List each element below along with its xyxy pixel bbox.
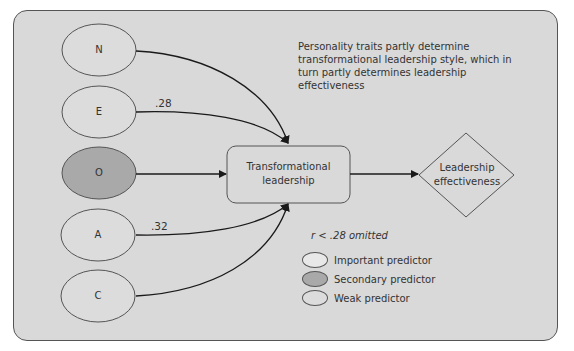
omitted-note: r < .28 omitted (311, 230, 388, 241)
caption-line-1: Personality traits partly determine (298, 40, 518, 53)
mediator-label-line2: leadership (227, 174, 350, 188)
diagram-canvas: N E O A C .28 .32 Transformational leade… (0, 0, 574, 351)
legend-swatch-weak-icon (302, 290, 328, 306)
legend-label-important: Important predictor (334, 255, 432, 266)
predictor-o-label: O (89, 166, 109, 180)
outcome-label-line2: effectiveness (421, 175, 513, 189)
predictor-e-label: E (89, 105, 109, 119)
coefficient-a: .32 (151, 220, 168, 232)
outcome-label-line1: Leadership (421, 161, 513, 175)
coefficient-e: .28 (155, 97, 172, 109)
legend-item-important: Important predictor (302, 252, 432, 268)
caption-line-4: effectiveness (298, 79, 518, 92)
diagram-caption: Personality traits partly determine tran… (298, 40, 518, 92)
mediator-label: Transformational leadership (227, 160, 350, 188)
predictor-n-label: N (89, 43, 109, 57)
caption-line-3: turn partly determines leadership (298, 66, 518, 79)
legend-item-weak: Weak predictor (302, 290, 410, 306)
outcome-label: Leadership effectiveness (421, 161, 513, 189)
legend-label-secondary: Secondary predictor (334, 274, 435, 285)
mediator-label-line1: Transformational (227, 160, 350, 174)
predictor-c-label: C (88, 289, 108, 303)
caption-line-2: transformational leadership style, which… (298, 53, 518, 66)
legend-label-weak: Weak predictor (334, 293, 410, 304)
legend-swatch-important-icon (302, 252, 328, 268)
legend-swatch-secondary-icon (302, 271, 328, 287)
predictor-a-label: A (88, 228, 108, 242)
arrow-e-to-mediator (136, 112, 288, 143)
legend-item-secondary: Secondary predictor (302, 271, 435, 287)
